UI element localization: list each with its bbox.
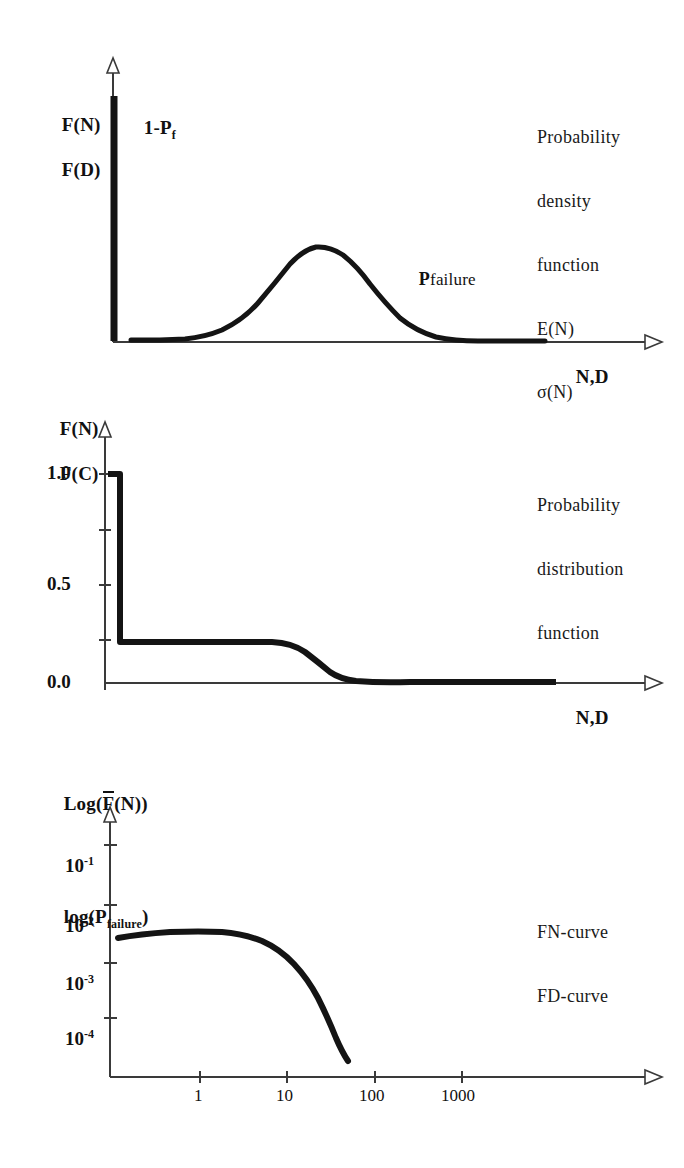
- panel-probability-density: F(N) F(D) 1-Pf Pfailure N,D Probability …: [0, 0, 684, 390]
- panel1-y-axis-label-line2: F(D): [62, 159, 101, 180]
- panel3-y-axis-label-line1: Log(F(N)): [34, 771, 149, 838]
- panel2-x-axis-arrow-icon: [645, 676, 662, 690]
- panel3-ylab-post: (N)): [114, 793, 148, 814]
- panel1-note-1: density: [537, 191, 620, 212]
- panel3-ytick-label-1e4: 10-4: [46, 1005, 94, 1074]
- panel1-curve-label-sub: failure: [430, 270, 476, 289]
- panel3-xtick-label-100: 100: [359, 1086, 385, 1106]
- panel2-y-axis-arrow-icon: [99, 422, 111, 437]
- panel3-ytick-label-1e1: 10-1: [46, 832, 94, 901]
- panel1-note-0: Probability: [537, 127, 620, 148]
- overbar-icon: [103, 791, 113, 793]
- panel2-note-2: function: [537, 623, 624, 644]
- panel3-xtick-label-1000: 1000: [441, 1086, 475, 1106]
- panel1-note-2: function: [537, 255, 620, 276]
- panel3-ytick-exponent-2: -3: [84, 972, 94, 986]
- panel2-notes: Probability distribution function: [537, 453, 624, 687]
- panel3-fn-curve: [118, 932, 348, 1062]
- panel1-y-axis-label: F(N) F(D): [42, 92, 101, 204]
- panel2-ytick-label-05: 0.5: [47, 573, 71, 595]
- panel3-ytick-exponent-3: -4: [84, 1027, 94, 1041]
- panel3-ylab2-post: ): [142, 906, 149, 927]
- panel3-ytick-mantissa-2: 10: [65, 974, 84, 995]
- panel1-y-axis-arrow-icon: [107, 58, 119, 73]
- panel1-y-axis-label-line1: F(N): [62, 114, 101, 135]
- panel3-ytick-exponent-1: -2: [84, 914, 94, 928]
- panel2-ytick-label-0: 0.0: [47, 671, 71, 693]
- panel1-curve-label-main: P: [419, 269, 430, 289]
- panel3-notes: FN-curve FD-curve: [537, 880, 608, 1050]
- panel3-ytick-mantissa-3: 10: [65, 1029, 84, 1050]
- panel3-ylab-overbar-group: F: [103, 793, 115, 815]
- panel2-ytick-label-1: 1.0: [47, 462, 71, 484]
- panel1-note-3: E(N): [537, 319, 620, 340]
- panel2-y-axis-label: F(N) F(C): [40, 396, 99, 508]
- panel1-spike-label: 1-Pf: [124, 95, 176, 165]
- panel3-note-1: FD-curve: [537, 986, 608, 1007]
- panel3-note-0: FN-curve: [537, 922, 608, 943]
- panel1-x-axis-arrow-icon: [645, 335, 662, 349]
- panel3-ylab2-sub: failure: [107, 917, 142, 931]
- panel3-ytick-exponent-0: -1: [84, 854, 94, 868]
- panel1-density-curve: [131, 247, 545, 341]
- panel3-xtick-label-1: 1: [194, 1086, 203, 1106]
- panel2-note-0: Probability: [537, 495, 624, 516]
- panel1-spike-label-main: 1-P: [144, 117, 172, 138]
- panel3-x-axis-arrow-icon: [645, 1070, 662, 1084]
- panel3-xtick-label-10: 10: [276, 1086, 293, 1106]
- panel1-spike-label-sub: f: [172, 128, 176, 142]
- panel2-note-1: distribution: [537, 559, 624, 580]
- panel2-y-axis-label-line1: F(N): [60, 418, 99, 439]
- panel3-ylab-pre: Log(: [64, 793, 103, 814]
- panel2-distribution-curve: [108, 474, 556, 682]
- panel3-ytick-mantissa-1: 10: [65, 916, 84, 937]
- panel3-ytick-mantissa-0: 10: [65, 856, 84, 877]
- panel-probability-distribution: F(N) F(C) 1.0 0.5 0.0 N,D Probability di…: [0, 390, 684, 720]
- panel1-curve-label: Pfailure: [400, 248, 476, 312]
- panel-fn-fd-curve: Log(F(N)) log(Pfailure) 10-1 10-2 10-3 1…: [0, 720, 684, 1168]
- panel3-ylab-over: F: [103, 793, 115, 814]
